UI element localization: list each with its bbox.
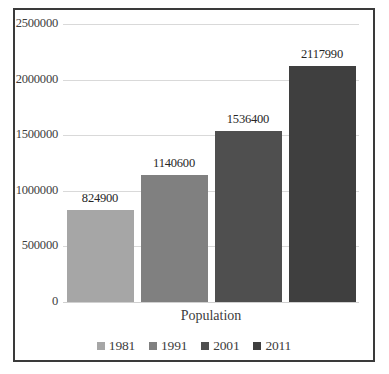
y-axis-tick-label: 0 (0, 294, 58, 309)
gridline (63, 302, 359, 303)
legend-item-1981[interactable]: 1981 (97, 338, 135, 354)
bar-2011[interactable] (289, 66, 356, 302)
legend-label-2001: 2001 (213, 338, 239, 354)
legend-item-2001[interactable]: 2001 (201, 338, 239, 354)
legend-label-2011: 2011 (265, 338, 291, 354)
y-axis-tick-label: 2500000 (0, 16, 58, 31)
bar-value-label-2011: 2117990 (301, 47, 343, 62)
bars-layer: 824900114060015364002117990 (63, 24, 359, 302)
bar-value-label-1991: 1140600 (153, 156, 195, 171)
bar-group-1981: 824900 (67, 24, 134, 302)
legend-swatch-icon-2011 (253, 342, 261, 350)
legend-swatch-icon-2001 (201, 342, 209, 350)
y-axis-tick-label: 1000000 (0, 183, 58, 198)
bar-2001[interactable] (215, 131, 282, 302)
bar-value-label-1981: 824900 (82, 191, 118, 206)
legend-swatch-icon-1981 (97, 342, 105, 350)
bar-group-2011: 2117990 (289, 24, 356, 302)
y-axis-tick-label: 2000000 (0, 72, 58, 87)
chart-legend: 1981199120012011 (13, 338, 375, 354)
bar-group-2001: 1536400 (215, 24, 282, 302)
legend-label-1991: 1991 (161, 338, 187, 354)
bar-1991[interactable] (141, 175, 208, 302)
bar-value-label-2001: 1536400 (227, 112, 269, 127)
y-axis-tick-label: 500000 (0, 238, 58, 253)
y-axis-tick-label: 1500000 (0, 127, 58, 142)
legend-label-1981: 1981 (109, 338, 135, 354)
legend-item-1991[interactable]: 1991 (149, 338, 187, 354)
legend-item-2011[interactable]: 2011 (253, 338, 291, 354)
bar-group-1991: 1140600 (141, 24, 208, 302)
population-bar-chart: 05000001000000150000020000002500000 8249… (0, 0, 389, 374)
x-axis-category-label: Population (63, 308, 359, 324)
legend-swatch-icon-1991 (149, 342, 157, 350)
bar-1981[interactable] (67, 210, 134, 302)
